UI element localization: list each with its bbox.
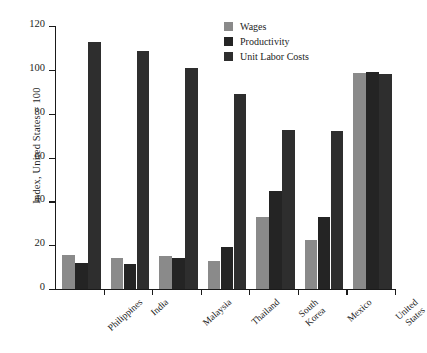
y-axis-tick: 60 [49, 158, 55, 159]
x-axis-tick [152, 289, 153, 295]
y-axis-tick: 100 [49, 70, 55, 71]
x-axis-label: Thailand [250, 297, 282, 327]
legend-swatch-ulc [224, 52, 233, 61]
bar-wages [62, 255, 75, 289]
x-axis-tick [249, 289, 250, 295]
legend-item: Wages [224, 20, 309, 33]
bar-unit-labor-costs [379, 74, 392, 289]
y-axis-tick-label: 60 [35, 150, 46, 161]
bar-productivity [124, 264, 137, 289]
bar-unit-labor-costs [137, 51, 150, 289]
plot-area: 020406080100120 [55, 26, 395, 289]
bar-unit-labor-costs [331, 131, 344, 289]
y-axis-tick-label: 0 [40, 281, 45, 292]
legend-swatch-wages [224, 22, 233, 31]
y-axis-tick-label: 80 [35, 106, 46, 117]
y-axis-tick: 20 [49, 245, 55, 246]
x-axis-label: Mexico [346, 297, 375, 324]
x-axis-tick [298, 289, 299, 295]
y-axis-line [55, 26, 56, 289]
x-axis-label: Malaysia [201, 297, 234, 328]
x-axis-tick [395, 289, 396, 295]
bar-unit-labor-costs [185, 68, 198, 289]
x-axis-tick [201, 289, 202, 295]
y-axis-tick: 40 [49, 201, 55, 202]
x-axis-tick [104, 289, 105, 295]
bar-productivity [221, 247, 234, 289]
bar-productivity [366, 72, 379, 289]
bar-wages [256, 217, 269, 289]
y-axis-tick: 0 [49, 289, 55, 290]
bar-productivity [269, 191, 282, 289]
legend-label: Productivity [240, 36, 289, 47]
y-axis-tick-label: 40 [35, 193, 46, 204]
bar-productivity [75, 263, 88, 289]
bar-unit-labor-costs [88, 42, 101, 289]
bar-productivity [318, 217, 331, 289]
x-axis-line [55, 289, 396, 290]
y-axis-tick: 80 [49, 114, 55, 115]
bar-wages [305, 240, 318, 289]
legend-item: Productivity [224, 35, 309, 48]
y-axis-tick-label: 20 [35, 237, 46, 248]
y-axis-tick: 120 [49, 26, 55, 27]
legend-label: Wages [240, 21, 266, 32]
legend-swatch-productivity [224, 37, 233, 46]
bar-productivity [172, 258, 185, 289]
bar-unit-labor-costs [234, 94, 247, 289]
y-axis-tick-label: 120 [29, 18, 45, 29]
x-axis-label: India [149, 297, 171, 318]
bar-wages [111, 258, 124, 289]
bar-wages [159, 256, 172, 289]
bar-wages [353, 73, 366, 289]
x-axis-label: South Korea [296, 297, 327, 328]
x-axis-label: Philippines [106, 297, 145, 333]
legend-item: Unit Labor Costs [224, 50, 309, 63]
y-axis-tick-label: 100 [29, 62, 45, 73]
bar-wages [208, 261, 221, 289]
x-axis-tick [346, 289, 347, 295]
bar-unit-labor-costs [282, 130, 295, 289]
x-axis-label: United States [393, 297, 426, 330]
legend-label: Unit Labor Costs [240, 51, 309, 62]
chart-legend: WagesProductivityUnit Labor Costs [224, 20, 309, 65]
